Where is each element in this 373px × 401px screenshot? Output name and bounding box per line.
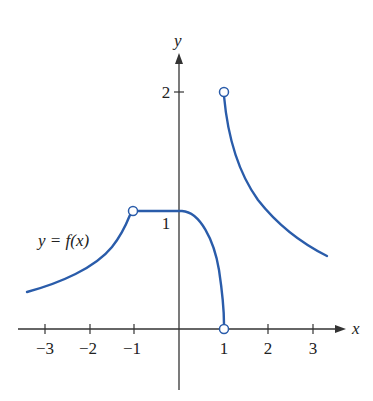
x-axis-arrow-icon [335,325,346,333]
open-point-circle-icon [220,88,229,97]
curve-piece-left [27,215,130,292]
x-tick-label: 1 [220,339,229,358]
x-tick-label: 2 [264,339,273,358]
y-axis-arrow-icon [175,53,183,64]
x-tick-label: −2 [79,339,97,358]
curve-piece-middle [137,211,224,324]
y-tick-label: 2 [162,83,171,102]
open-point-circle-icon [129,207,138,216]
function-graph: −3 −2 −1 1 2 3 1 2 x y y = f(x) [0,0,373,401]
curve-piece-right [224,96,327,256]
y-axis-label: y [172,31,182,50]
function-curve [27,96,327,324]
open-point-circle-icon [220,325,229,334]
y-tick-label: 1 [162,214,171,233]
x-tick-label: 3 [309,339,318,358]
curve-label: y = f(x) [36,231,89,250]
x-tick-label: −1 [123,339,141,358]
y-axis [174,53,184,390]
x-axis [18,324,346,334]
x-tick-label: −3 [36,339,54,358]
x-axis-label: x [351,319,360,338]
